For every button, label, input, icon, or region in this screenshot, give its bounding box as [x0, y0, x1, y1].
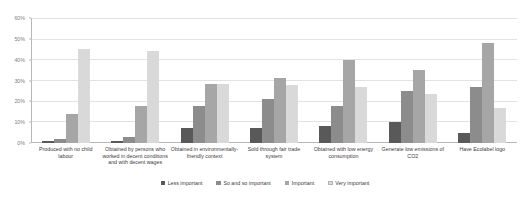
legend-item[interactable]: So and so important [216, 180, 270, 186]
y-tick-label-50: 50% [14, 36, 25, 42]
y-tick-label-40: 40% [14, 57, 25, 63]
x-axis-label: Generate low emissions of CO2 [378, 146, 447, 166]
bar-group [309, 18, 378, 143]
legend-item[interactable]: Important [285, 180, 314, 186]
bar-group [170, 18, 239, 143]
bar [181, 128, 193, 143]
bar [262, 99, 274, 143]
bar [494, 108, 506, 143]
bar [250, 128, 262, 143]
bar [217, 84, 229, 143]
bar-group [448, 18, 517, 143]
bar [54, 139, 66, 143]
legend-swatch-icon [216, 181, 221, 186]
bar [401, 91, 413, 143]
bar [319, 126, 331, 143]
y-tick-label-60: 60% [14, 15, 25, 21]
legend-swatch-icon [161, 181, 166, 186]
y-tick-label-30: 30% [14, 78, 25, 84]
x-axis-label: Obtained in environmentally-friendly con… [170, 146, 239, 166]
legend-label: Less important [168, 180, 203, 186]
x-axis-label: Produced with no child labour [31, 146, 100, 166]
bar-groups [31, 18, 517, 143]
bar [205, 84, 217, 143]
legend-label: Very important [335, 180, 369, 186]
bar-group [239, 18, 308, 143]
bar-group [100, 18, 169, 143]
bar [66, 114, 78, 143]
bar-group [378, 18, 447, 143]
bar [111, 141, 123, 143]
y-axis-labels: 0% 10% 20% 30% 40% 50% 60% [0, 18, 29, 143]
bar [482, 43, 494, 143]
bar [78, 49, 90, 143]
bar [135, 106, 147, 144]
bar [413, 70, 425, 143]
legend-swatch-icon [285, 181, 290, 186]
bar [331, 106, 343, 144]
bar [286, 85, 298, 143]
bar [147, 51, 159, 143]
x-axis-label: Have Ecolabel logo [448, 146, 517, 166]
bar [123, 137, 135, 143]
y-tick-label-20: 20% [14, 98, 25, 104]
bar-chart: 0% 10% 20% 30% 40% 50% 60% Produced with… [0, 0, 530, 199]
x-axis-label: Obtained by persons who worked in decent… [100, 146, 169, 166]
bar [389, 122, 401, 143]
legend-item[interactable]: Very important [328, 180, 369, 186]
legend-item[interactable]: Less important [161, 180, 203, 186]
bar-group [31, 18, 100, 143]
x-axis-labels: Produced with no child labourObtained by… [31, 146, 517, 166]
bar [470, 87, 482, 143]
bar [458, 133, 470, 143]
y-tick-label-10: 10% [14, 119, 25, 125]
bar [42, 141, 54, 143]
bar [355, 87, 367, 143]
x-axis-label: Sold through fair trade system [239, 146, 308, 166]
bar [343, 60, 355, 143]
bar [274, 78, 286, 143]
bar [193, 106, 205, 144]
bar [425, 94, 437, 143]
legend-label: So and so important [223, 180, 270, 186]
legend-label: Important [292, 180, 314, 186]
chart-legend: Less importantSo and so importantImporta… [0, 180, 530, 186]
y-tick-label-0: 0% [17, 140, 25, 146]
x-axis-label: Obtained with low energy consumption [309, 146, 378, 166]
legend-swatch-icon [328, 181, 333, 186]
